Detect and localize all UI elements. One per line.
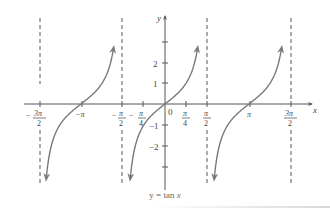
x-tick-label-neg-3pi-2: − 3π 2 bbox=[26, 109, 46, 128]
x-tick-label-pi: π bbox=[247, 110, 252, 119]
svg-text:−: − bbox=[26, 111, 31, 120]
y-axis-label: y bbox=[156, 13, 161, 23]
y-tick-label-neg2: −2 bbox=[149, 142, 159, 152]
x-tick-label-pi-4: π 4 bbox=[182, 109, 190, 128]
svg-text:−: − bbox=[112, 111, 117, 120]
y-tick-label-2: 2 bbox=[153, 59, 158, 69]
y-tick-label-1: 1 bbox=[153, 79, 158, 89]
x-tick-label-pi-2: π 2 bbox=[203, 109, 211, 128]
svg-text:3π: 3π bbox=[284, 109, 294, 118]
svg-text:2: 2 bbox=[119, 119, 123, 128]
svg-text:2: 2 bbox=[288, 119, 292, 128]
figure-caption: y = tan x bbox=[0, 190, 330, 200]
bottom-divider bbox=[150, 206, 330, 208]
svg-text:−π: −π bbox=[75, 110, 85, 119]
svg-text:4: 4 bbox=[139, 119, 143, 128]
svg-text:π: π bbox=[247, 110, 252, 119]
svg-text:4: 4 bbox=[183, 119, 187, 128]
caption-variable: x bbox=[177, 190, 181, 200]
svg-text:π: π bbox=[204, 109, 209, 118]
svg-text:π: π bbox=[183, 109, 188, 118]
y-tick-label-neg1: −1 bbox=[149, 121, 159, 131]
x-tick-label-3pi-2: 3π 2 bbox=[284, 109, 297, 128]
svg-text:2: 2 bbox=[37, 119, 41, 128]
svg-text:π: π bbox=[139, 109, 144, 118]
svg-text:π: π bbox=[119, 109, 124, 118]
tan-graph: y x 2 1 −1 −2 0 − 3π 2 −π − π 2 − π 4 π … bbox=[0, 0, 330, 212]
x-axis-label: x bbox=[312, 105, 317, 115]
caption-prefix: y = tan bbox=[149, 190, 176, 200]
svg-text:2: 2 bbox=[204, 119, 208, 128]
x-tick-label-neg-pi-2: − π 2 bbox=[112, 109, 126, 128]
x-tick-label-neg-pi: −π bbox=[75, 110, 85, 119]
svg-text:−: − bbox=[129, 111, 134, 120]
svg-text:3π: 3π bbox=[33, 109, 43, 118]
origin-label: 0 bbox=[168, 107, 173, 117]
